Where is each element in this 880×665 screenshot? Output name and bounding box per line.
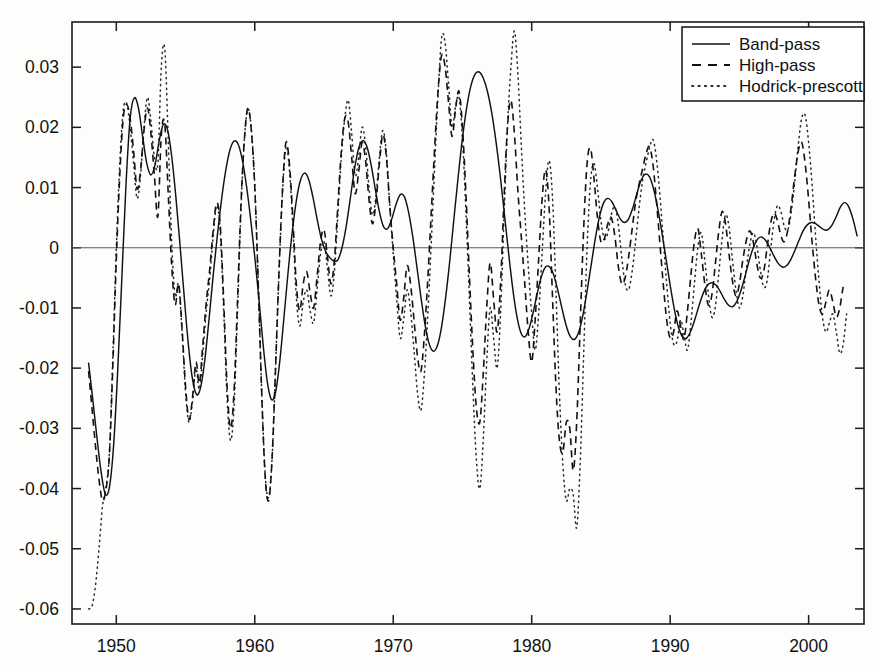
- y-tick-label-2: 0.01: [25, 178, 59, 198]
- y-axis-ticks: [72, 67, 864, 609]
- y-axis-tick-labels: 0.030.020.010-0.01-0.02-0.03-0.04-0.05-0…: [19, 57, 59, 619]
- y-tick-label-0: 0.03: [25, 57, 59, 77]
- business-cycle-filters-chart: 0.030.020.010-0.01-0.02-0.03-0.04-0.05-0…: [0, 0, 880, 665]
- x-tick-label-0: 1950: [97, 636, 136, 656]
- chart-legend: Band-passHigh-passHodrick-prescott: [682, 27, 864, 101]
- x-tick-label-3: 1980: [512, 636, 551, 656]
- legend-label-0: Band-pass: [739, 35, 820, 54]
- y-tick-label-8: -0.05: [19, 539, 59, 559]
- y-tick-label-9: -0.06: [19, 599, 59, 619]
- y-tick-label-6: -0.03: [19, 418, 59, 438]
- series-line-hodrick-prescott: [89, 31, 847, 609]
- legend-label-1: High-pass: [739, 56, 816, 75]
- y-tick-label-5: -0.02: [19, 358, 59, 378]
- data-series-group: [89, 31, 857, 609]
- chart-figure: 0.030.020.010-0.01-0.02-0.03-0.04-0.05-0…: [0, 0, 880, 665]
- series-line-high-pass: [89, 54, 844, 501]
- series-line-band-pass: [89, 72, 857, 495]
- x-tick-label-2: 1970: [374, 636, 413, 656]
- y-tick-label-4: -0.01: [19, 298, 59, 318]
- x-tick-label-5: 2000: [789, 636, 828, 656]
- x-tick-label-4: 1990: [651, 636, 690, 656]
- legend-label-2: Hodrick-prescott: [739, 77, 863, 96]
- x-axis-ticks: [116, 22, 808, 624]
- x-tick-label-1: 1960: [235, 636, 274, 656]
- plot-frame: [72, 22, 864, 624]
- x-axis-tick-labels: 195019601970198019902000: [97, 636, 829, 656]
- y-tick-label-7: -0.04: [19, 479, 59, 499]
- y-tick-label-3: 0: [49, 238, 59, 258]
- y-tick-label-1: 0.02: [25, 117, 59, 137]
